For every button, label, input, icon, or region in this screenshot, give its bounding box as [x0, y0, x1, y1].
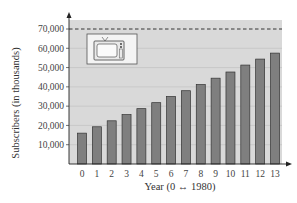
y-tick-label: 20,000: [38, 121, 64, 131]
x-tick-label: 12: [255, 169, 265, 179]
x-tick-label: 4: [139, 169, 144, 179]
bar: [271, 53, 280, 164]
television-icon: [87, 34, 137, 64]
x-tick-label: 3: [124, 169, 129, 179]
bar: [137, 109, 146, 164]
bar: [107, 121, 116, 164]
x-tick-label: 10: [226, 169, 236, 179]
y-axis-title: Subscribers (in thousands): [10, 47, 22, 159]
bar: [152, 103, 161, 164]
bar: [241, 65, 250, 164]
y-axis-ticks: 10,00020,00030,00040,00050,00060,00070,0…: [38, 24, 69, 150]
x-tick-label: 5: [154, 169, 159, 179]
bar-chart: 10,00020,00030,00040,00050,00060,00070,0…: [0, 0, 297, 203]
bar: [78, 133, 87, 164]
y-tick-label: 60,000: [38, 44, 64, 54]
x-tick-label: 8: [198, 169, 203, 179]
x-tick-label: 11: [241, 169, 250, 179]
x-tick-label: 7: [184, 169, 189, 179]
x-tick-label: 0: [80, 169, 85, 179]
y-tick-label: 70,000: [38, 24, 64, 34]
bar: [226, 72, 235, 164]
bar: [211, 78, 220, 164]
y-tick-label: 30,000: [38, 101, 64, 111]
bar: [196, 85, 205, 164]
x-tick-label: 1: [94, 169, 99, 179]
y-tick-label: 10,000: [38, 140, 64, 150]
x-axis-title: Year (0 ↔ 1980): [145, 181, 216, 193]
x-tick-label: 6: [169, 169, 174, 179]
y-tick-label: 40,000: [38, 82, 64, 92]
x-tick-label: 13: [270, 169, 280, 179]
bar: [122, 115, 131, 164]
bar: [256, 59, 265, 164]
x-tick-label: 9: [213, 169, 218, 179]
bar: [92, 127, 101, 164]
x-axis-ticks: 012345678910111213: [80, 169, 280, 179]
x-tick-label: 2: [109, 169, 114, 179]
bar: [167, 97, 176, 165]
y-tick-label: 50,000: [38, 63, 64, 73]
bar: [181, 91, 190, 164]
